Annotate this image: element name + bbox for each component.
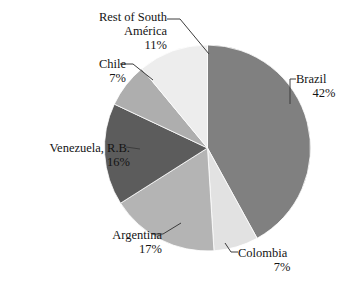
slice-label-percent: 7%	[238, 260, 326, 274]
slice-label-percent: 42%	[296, 86, 352, 100]
slice-label-rest-of-south-america: Rest of South América 11%	[55, 10, 167, 52]
slice-label-name: Argentina	[58, 228, 162, 242]
slice-label-name: Colombia	[238, 246, 326, 260]
slice-label-colombia: Colombia 7%	[238, 246, 326, 274]
slice-label-name: Venezuela, R.B.	[2, 141, 130, 155]
slice-label-percent: 16%	[2, 155, 130, 169]
slice-label-percent: 7%	[42, 71, 126, 85]
slice-label-argentina: Argentina 17%	[58, 228, 162, 256]
slice-label-name: Brazil	[296, 72, 352, 86]
slice-label-chile: Chile 7%	[42, 57, 126, 85]
slice-label-name-line2: América	[55, 24, 167, 38]
slice-label-percent: 11%	[55, 38, 167, 52]
slice-label-percent: 17%	[58, 242, 162, 256]
slice-label-name: Chile	[42, 57, 126, 71]
slice-label-brazil: Brazil 42%	[296, 72, 352, 100]
slice-label-venezuela: Venezuela, R.B. 16%	[2, 141, 130, 169]
slice-label-name: Rest of South	[55, 10, 167, 24]
pie-chart: Rest of South América 11% Chile 7% Venez…	[0, 0, 355, 291]
